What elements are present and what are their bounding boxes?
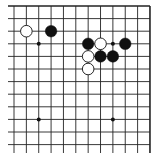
- black-stone: [45, 25, 57, 37]
- black-stone: [82, 38, 94, 50]
- star-point: [111, 117, 115, 121]
- black-stone: [107, 51, 119, 63]
- white-stone: [82, 63, 94, 75]
- white-stone: [21, 25, 33, 37]
- black-stone: [95, 51, 107, 63]
- white-stone: [82, 51, 94, 63]
- star-point: [37, 117, 41, 121]
- star-point: [37, 42, 41, 46]
- star-point: [111, 42, 115, 46]
- go-board: [0, 0, 157, 156]
- white-stone: [95, 38, 107, 50]
- black-stone: [119, 38, 131, 50]
